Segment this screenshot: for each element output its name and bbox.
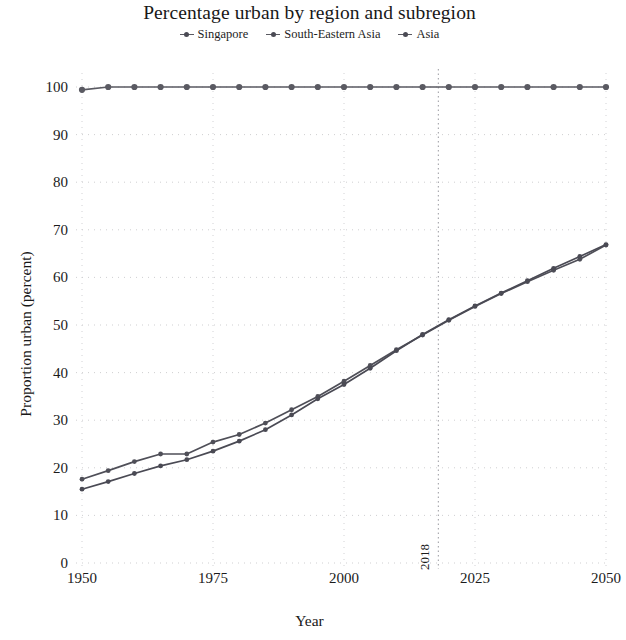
data-point-marker [106,468,111,473]
x-tick-label: 2025 [445,570,505,587]
data-point-marker [446,84,452,90]
data-point-marker [158,463,163,468]
data-point-marker [236,84,242,90]
data-point-marker [525,278,530,283]
data-point-marker [106,479,111,484]
y-tick-label: 20 [28,459,68,476]
data-point-marker [315,396,320,401]
data-point-marker [499,291,504,296]
chart-legend: Singapore South-Eastern Asia Asia [0,27,619,42]
data-point-marker [262,84,268,90]
grid-lines [76,73,610,569]
x-tick-label: 2000 [314,570,374,587]
data-point-marker [132,471,137,476]
y-tick-label: 30 [28,412,68,429]
legend-marker-icon [266,30,280,39]
y-tick-label: 10 [28,507,68,524]
data-point-marker [105,84,111,90]
data-point-marker [498,84,504,90]
data-point-marker [184,84,190,90]
chart-title: Percentage urban by region and subregion [0,2,619,24]
y-tick-label: 60 [28,269,68,286]
data-point-marker [80,477,85,482]
y-tick-label: 0 [28,555,68,572]
data-point-marker [79,87,85,93]
data-point-marker [472,84,478,90]
legend-item-asia[interactable]: Asia [398,27,439,42]
data-point-marker [211,440,216,445]
data-point-marker [237,432,242,437]
data-point-marker [473,304,478,309]
y-tick-label: 50 [28,317,68,334]
data-point-marker [132,459,137,464]
data-point-marker [342,382,347,387]
legend-label: Asia [416,27,439,42]
y-tick-label: 80 [28,174,68,191]
data-point-marker [604,242,609,247]
x-tick-label: 2050 [576,570,626,587]
data-point-marker [394,348,399,353]
data-point-marker [420,332,425,337]
data-point-marker [524,84,530,90]
data-point-marker [80,487,85,492]
x-axis-title: Year [0,612,619,630]
legend-label: Singapore [198,27,249,42]
data-point-marker [315,84,321,90]
y-tick-label: 90 [28,126,68,143]
data-point-marker [446,317,451,322]
data-point-marker [603,84,609,90]
legend-item-singapore[interactable]: Singapore [180,27,249,42]
data-point-marker [263,421,268,426]
y-tick-label: 70 [28,221,68,238]
legend-label: South-Eastern Asia [284,27,380,42]
data-point-marker [158,84,164,90]
data-point-marker [393,84,399,90]
data-point-marker [368,366,373,371]
data-point-marker [184,457,189,462]
data-point-marker [577,254,582,259]
legend-marker-icon [398,30,412,39]
data-point-marker [184,452,189,457]
data-point-marker [289,407,294,412]
data-point-marker [551,266,556,271]
data-point-marker [289,84,295,90]
x-tick-label: 1950 [52,570,112,587]
y-tick-label: 40 [28,364,68,381]
legend-item-south-eastern-asia[interactable]: South-Eastern Asia [266,27,380,42]
data-point-marker [211,449,216,454]
data-point-marker [367,84,373,90]
reference-line-label: 2018 [417,544,433,570]
data-point-marker [289,413,294,418]
x-tick-label: 1975 [183,570,243,587]
data-point-marker [237,439,242,444]
data-point-marker [577,84,583,90]
legend-marker-icon [180,30,194,39]
data-point-marker [341,84,347,90]
data-point-marker [551,84,557,90]
data-point-marker [158,452,163,457]
data-point-marker [263,427,268,432]
data-point-marker [420,84,426,90]
data-point-marker [131,84,137,90]
data-point-marker [210,84,216,90]
y-tick-label: 100 [28,79,68,96]
